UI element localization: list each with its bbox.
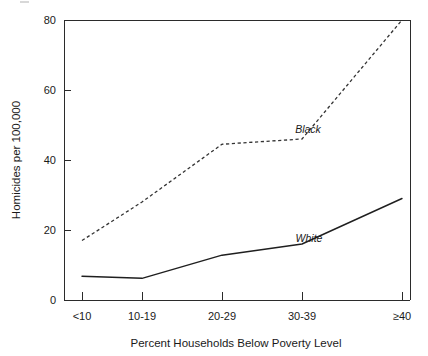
line-chart: 80 60 40 20 0 <10 10-19 20-29 30-39 ≥40 …	[0, 0, 428, 356]
x-tick-label-0: <10	[73, 310, 92, 322]
y-tick-label-20: 20	[44, 224, 56, 236]
x-tick-label-3: 30-39	[288, 310, 316, 322]
x-tick-label-1: 10-19	[128, 310, 156, 322]
y-tick-label-80: 80	[44, 14, 56, 26]
series-line-white	[82, 199, 402, 279]
y-tick-label-0: 0	[50, 294, 56, 306]
series-line-black	[82, 20, 402, 241]
series-label-black: Black	[295, 123, 321, 135]
x-tick-label-2: 20-29	[208, 310, 236, 322]
y-tick-label-40: 40	[44, 154, 56, 166]
scan-artifact	[20, 1, 29, 3]
series-label-white: White	[296, 232, 323, 244]
x-tick-label-4: ≥40	[393, 310, 411, 322]
chart-container: 80 60 40 20 0 <10 10-19 20-29 30-39 ≥40 …	[0, 0, 428, 356]
y-axis-title: Homicides per 100,000	[10, 101, 22, 219]
x-axis-title: Percent Households Below Poverty Level	[131, 337, 342, 349]
y-tick-label-60: 60	[44, 84, 56, 96]
